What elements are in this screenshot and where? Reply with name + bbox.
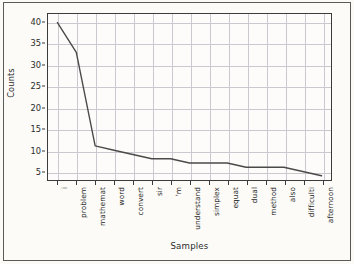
- x-tick-label: convert: [136, 187, 145, 215]
- y-tick-label: 10: [30, 146, 41, 156]
- y-tick-label: 20: [30, 103, 41, 113]
- x-tick-label: i: [60, 187, 69, 189]
- x-tick-label: also: [288, 187, 297, 202]
- data-line-svg: [48, 14, 331, 180]
- y-tick-mark: [42, 64, 45, 65]
- y-tick-mark: [42, 107, 45, 108]
- y-axis-tick-labels: 510152025303540: [0, 13, 45, 181]
- series-line: [57, 23, 321, 176]
- y-tick-mark: [42, 150, 45, 151]
- x-tick-label: 'm: [174, 187, 183, 196]
- x-tick-label: dual: [250, 187, 259, 203]
- y-tick-label: 35: [30, 38, 41, 48]
- x-tick-label: difficulti: [307, 187, 316, 217]
- x-tick-mark: [152, 181, 153, 185]
- y-tick-mark: [42, 129, 45, 130]
- plot-area: [47, 13, 332, 181]
- screenshot-page: Counts 510152025303540 iproblemmathematw…: [0, 0, 354, 264]
- chart-figure: Counts 510152025303540 iproblemmathematw…: [0, 0, 354, 264]
- x-tick-label: method: [269, 187, 278, 216]
- x-tick-label: understand: [193, 187, 202, 230]
- x-tick-label: word: [117, 187, 126, 205]
- x-tick-mark: [57, 181, 58, 185]
- y-tick-mark: [42, 43, 45, 44]
- x-tick-mark: [190, 181, 191, 185]
- x-tick-label: afternoon: [326, 187, 335, 223]
- x-axis-label: Samples: [47, 241, 332, 251]
- x-tick-mark: [228, 181, 229, 185]
- x-tick-label: sir: [155, 187, 164, 196]
- x-tick-mark: [114, 181, 115, 185]
- x-tick-mark: [133, 181, 134, 185]
- x-tick-mark: [266, 181, 267, 185]
- y-tick-mark: [42, 86, 45, 87]
- x-axis-tick-labels: iproblemmathematwordconvertsir'mundersta…: [47, 181, 332, 241]
- x-tick-mark: [323, 181, 324, 185]
- y-tick-label: 25: [30, 81, 41, 91]
- x-tick-label: simplex: [212, 187, 221, 216]
- x-tick-label: equat: [231, 187, 240, 209]
- x-tick-mark: [285, 181, 286, 185]
- y-tick-label: 40: [30, 17, 41, 27]
- y-tick-mark: [42, 21, 45, 22]
- x-tick-mark: [209, 181, 210, 185]
- x-tick-mark: [304, 181, 305, 185]
- y-tick-label: 15: [30, 124, 41, 134]
- x-tick-label: mathemat: [98, 187, 107, 226]
- x-tick-mark: [247, 181, 248, 185]
- x-tick-mark: [95, 181, 96, 185]
- x-tick-mark: [171, 181, 172, 185]
- x-tick-label: problem: [79, 187, 88, 218]
- y-tick-mark: [42, 172, 45, 173]
- y-tick-label: 30: [30, 60, 41, 70]
- x-tick-mark: [76, 181, 77, 185]
- y-tick-label: 5: [36, 167, 41, 177]
